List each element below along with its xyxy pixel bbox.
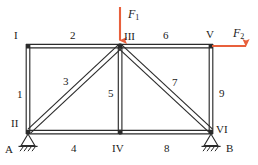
member-label-7: 7 <box>172 77 178 88</box>
joint-pin-IV <box>118 130 122 134</box>
member-1 <box>26 44 30 134</box>
node-label-VI: VI <box>216 124 228 135</box>
member-label-8: 8 <box>164 143 170 154</box>
member-label-5: 5 <box>108 88 114 99</box>
support-a <box>19 134 38 151</box>
force-label-f1: F1 <box>128 8 139 20</box>
node-label-IV: IV <box>112 143 124 154</box>
member-6 <box>119 44 213 48</box>
member-8 <box>119 130 213 134</box>
member-label-9: 9 <box>219 88 225 99</box>
support-label-a: A <box>5 144 13 155</box>
members-group <box>26 44 213 134</box>
support-b <box>202 134 221 151</box>
truss-svg-canvas <box>0 0 258 165</box>
member-label-6: 6 <box>163 30 169 41</box>
force-label-f1-subscript: 1 <box>135 13 139 22</box>
member-9 <box>209 44 213 134</box>
member-7 <box>118 44 213 134</box>
joint-pin-I <box>26 44 30 48</box>
member-label-3: 3 <box>63 76 69 87</box>
node-label-III: III <box>124 31 135 42</box>
node-label-I: I <box>14 30 18 41</box>
member-5 <box>118 44 122 134</box>
member-label-4: 4 <box>71 143 77 154</box>
force-label-f2-subscript: 2 <box>240 32 244 41</box>
truss-diagram: I II III IV V VI 1 2 3 4 5 6 7 8 9 A B F… <box>0 0 258 165</box>
node-label-V: V <box>206 29 214 40</box>
joint-pin-III <box>118 44 122 48</box>
member-label-2: 2 <box>70 30 76 41</box>
force-label-f2: F2 <box>233 27 244 39</box>
member-4 <box>26 130 122 134</box>
node-label-II: II <box>11 118 18 129</box>
joint-pins-group <box>26 44 213 134</box>
member-2 <box>26 44 122 48</box>
member-label-1: 1 <box>17 89 23 100</box>
support-label-b: B <box>226 143 233 154</box>
